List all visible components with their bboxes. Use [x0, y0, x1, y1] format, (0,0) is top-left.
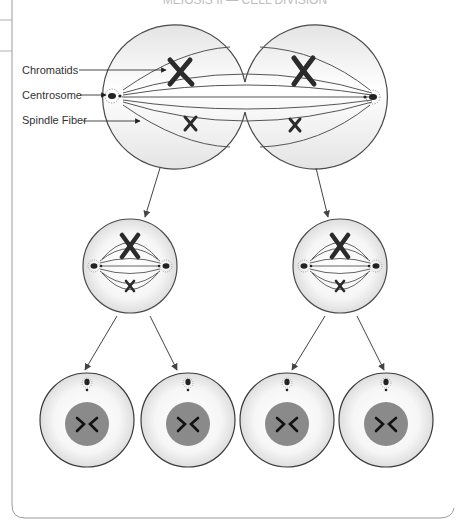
- parent-cell: [100, 20, 395, 175]
- daughter-cell-2: [141, 373, 235, 467]
- daughter-cell-3: [240, 373, 334, 467]
- cell-division-diagram: MEIOSIS II — CELL DIVISION: [0, 0, 456, 520]
- metaphase-cell-left: [83, 219, 177, 313]
- daughter-cell-1: [40, 373, 134, 467]
- metaphase-cell-right: [293, 219, 387, 313]
- nucleus: [265, 402, 309, 446]
- nucleus: [364, 402, 408, 446]
- svg-text:Spindle Fiber: Spindle Fiber: [22, 114, 87, 126]
- svg-text:Chromatids: Chromatids: [22, 64, 79, 76]
- label-centrosome: Centrosome: [22, 89, 106, 101]
- svg-text:Centrosome: Centrosome: [22, 89, 82, 101]
- division-arrows-2: [85, 316, 384, 370]
- division-arrows-1: [145, 168, 328, 217]
- diagram-title: MEIOSIS II — CELL DIVISION: [163, 0, 327, 7]
- daughter-cell-4: [339, 373, 433, 467]
- nucleus: [65, 402, 109, 446]
- nucleus: [166, 402, 210, 446]
